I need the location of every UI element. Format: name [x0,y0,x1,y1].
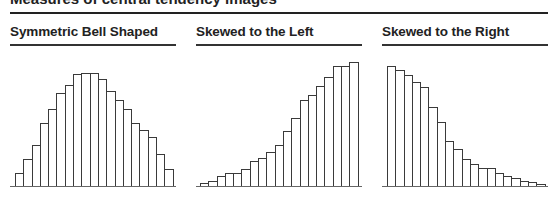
histogram-bar [349,62,358,186]
title-rule [10,12,548,14]
panel-skewed-right: Skewed to the Right [382,20,548,199]
bars [387,60,545,186]
panel-skewed-left: Skewed to the Left [196,20,362,199]
panel-rule [382,44,548,46]
panel-title: Skewed to the Right [382,24,509,39]
panel-rule [10,44,176,46]
histogram-symmetric [10,60,176,187]
panel-title: Symmetric Bell Shaped [10,24,158,39]
panel-rule [196,44,362,46]
bars [200,60,358,186]
x-axis-baseline [10,186,176,188]
histogram-bar [164,169,173,186]
x-axis-baseline [382,186,548,188]
histogram-skewed-right [382,60,548,187]
panel-symmetric: Symmetric Bell Shaped [10,20,176,199]
histogram-skewed-left [196,60,362,187]
bars [15,60,173,186]
page-title: Measures of central tendency images [10,0,277,7]
x-axis-baseline [196,186,362,188]
panel-title: Skewed to the Left [196,24,313,39]
